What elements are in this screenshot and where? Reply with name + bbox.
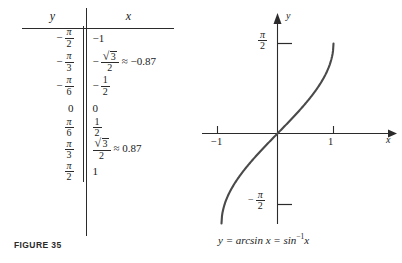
table-row: −π2−1: [22, 26, 174, 50]
minus-sign: −: [93, 55, 99, 67]
table-row: π21: [22, 161, 174, 182]
fraction-denominator: 2: [65, 172, 74, 182]
arcsin-value-table: y x −π2−1−π3−√32≈ −0.87−π6−1200π612π3√32…: [22, 6, 174, 182]
fraction: π3: [65, 51, 74, 72]
x-tick-label-negative-one: −1: [211, 136, 222, 147]
fraction: 12: [101, 75, 110, 96]
value-text: 0: [93, 102, 99, 114]
cell-x-value: −√32≈ −0.87: [83, 50, 174, 74]
figure-label: FIGURE 35: [14, 240, 62, 250]
y-axis-label: y: [286, 10, 290, 21]
cell-x-value: 12: [83, 117, 174, 138]
fraction-pi-over-two: π 2: [256, 190, 265, 211]
cell-y-value: −π6: [22, 74, 83, 98]
cell-y-value: −π2: [22, 26, 83, 50]
value-text: −1: [93, 32, 105, 44]
value-table-panel: y x −π2−1−π3−√32≈ −0.87−π6−1200π612π3√32…: [0, 0, 200, 263]
cell-x-value: √32≈ 0.87: [83, 138, 174, 160]
fraction-denominator: 3: [65, 150, 74, 160]
minus-sign: −: [93, 79, 99, 91]
caption-text-part2: x: [304, 234, 309, 246]
fraction-numerator: 1: [101, 75, 110, 86]
fraction: π3: [65, 139, 74, 160]
fraction-denominator: 6: [65, 128, 74, 138]
y-tick-label-pi-over-two: π 2: [258, 30, 267, 51]
table-row: −π6−12: [22, 74, 174, 98]
fraction: √32: [101, 51, 119, 73]
y-axis: [274, 13, 282, 224]
value-text: 0: [68, 102, 74, 114]
fraction: π2: [65, 27, 74, 48]
fraction-numerator: √3: [101, 51, 119, 63]
cell-x-value: −1: [83, 26, 174, 50]
arcsin-graph-svg: [200, 0, 402, 230]
cell-y-value: −π3: [22, 50, 83, 74]
fraction-denominator: 3: [65, 63, 74, 73]
square-root: √3: [103, 51, 117, 62]
fraction-denominator: 2: [101, 63, 119, 73]
table-row: 00: [22, 98, 174, 117]
fraction-numerator: √3: [93, 138, 111, 150]
y-axis-ticks: [278, 44, 293, 205]
cell-x-value: −12: [83, 74, 174, 98]
fraction-numerator: π: [65, 27, 74, 38]
y-tick-label-negative-pi-over-two: − π 2: [248, 190, 265, 211]
caption-text-part1: y = arcsin x = sin: [218, 234, 296, 246]
minus-sign: −: [56, 31, 62, 43]
fraction-denominator: 2: [101, 87, 110, 97]
cell-y-value: π2: [22, 161, 83, 182]
fraction-denominator: 2: [258, 41, 267, 51]
table-row: −π3−√32≈ −0.87: [22, 50, 174, 74]
fraction: π2: [65, 161, 74, 182]
radical-icon: √: [95, 137, 102, 149]
x-tick-label-positive-one: 1: [328, 136, 333, 147]
fraction: π6: [65, 117, 74, 138]
fraction: 12: [93, 117, 102, 138]
approximate-value: ≈ 0.87: [114, 142, 142, 154]
cell-y-value: π3: [22, 138, 83, 160]
fraction-denominator: 2: [65, 39, 74, 49]
fraction: √32: [93, 138, 111, 160]
fraction-denominator: 2: [93, 151, 111, 161]
minus-sign: −: [248, 194, 254, 205]
cell-y-value: π6: [22, 117, 83, 138]
x-axis-label: x: [386, 134, 390, 145]
square-root: √3: [95, 138, 109, 149]
x-axis: [202, 130, 397, 138]
radicand: 3: [102, 138, 109, 149]
fraction-numerator: π: [65, 75, 74, 86]
value-text: 1: [93, 165, 99, 177]
approximate-value: ≈ −0.87: [122, 55, 156, 67]
table-row: π612: [22, 117, 174, 138]
fraction-denominator: 2: [256, 201, 265, 211]
fraction-numerator: π: [65, 51, 74, 62]
table-row: π3√32≈ 0.87: [22, 138, 174, 160]
column-header-y: y: [22, 6, 83, 26]
x-axis-ticks: [218, 126, 334, 134]
cell-x-value: 1: [83, 161, 174, 182]
minus-sign: −: [56, 79, 62, 91]
fraction-denominator: 6: [65, 87, 74, 97]
fraction: π6: [65, 75, 74, 96]
radical-icon: √: [103, 50, 110, 62]
cell-x-value: 0: [83, 98, 174, 117]
cell-y-value: 0: [22, 98, 83, 117]
minus-sign: −: [56, 55, 62, 67]
radicand: 3: [110, 51, 117, 62]
fraction-pi-over-two: π 2: [258, 30, 267, 51]
column-header-x: x: [83, 6, 174, 26]
table-header-row: y x: [22, 6, 174, 26]
graph-caption: y = arcsin x = sin−1x: [218, 232, 309, 246]
graph-panel: y x −1 1 π 2 − π 2 y = arcsin x = sin−1x: [200, 0, 402, 263]
